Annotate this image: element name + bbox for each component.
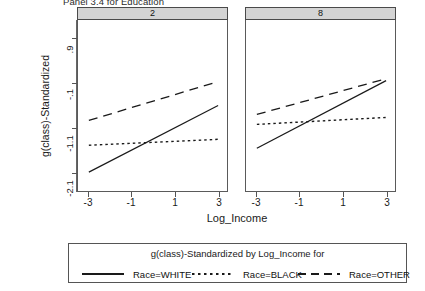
x-tick-label: 1: [331, 197, 355, 208]
legend-entries: Race=WHITE Race=BLACK Race=OTHER: [69, 266, 406, 282]
plot-lines-right: [246, 20, 395, 191]
series-line-white: [257, 81, 386, 149]
y-tick-label: .9: [64, 39, 75, 61]
series-line-black: [257, 117, 386, 124]
x-tick-label: -1: [287, 197, 311, 208]
plot-area-left: [77, 20, 228, 192]
x-axis-right: -3 -1 1 3: [245, 192, 396, 208]
x-axis-left: -3 -1 1 3: [77, 192, 228, 208]
x-tick-label: 1: [163, 197, 187, 208]
plot-area-right: [245, 20, 396, 192]
series-line-black: [89, 139, 218, 145]
x-axis-title: Log_Income: [78, 212, 396, 224]
legend-item-black: Race=BLACK: [191, 266, 302, 282]
legend-title: g(class)-Standardized by Log_Income for: [69, 248, 406, 259]
line-solid-icon: [81, 269, 125, 279]
panel-strip-label: 2: [77, 7, 228, 20]
x-tick-label: 3: [375, 197, 399, 208]
y-tick-label: -1.1: [64, 129, 75, 159]
x-tick-label: 3: [207, 197, 231, 208]
legend-label-white: Race=WHITE: [133, 269, 191, 280]
chart-legend: g(class)-Standardized by Log_Income for …: [68, 243, 407, 283]
legend-item-white: Race=WHITE: [81, 266, 191, 282]
chart-title: Panel 3.4 for Education: [63, 0, 164, 7]
line-dashed-icon: [297, 269, 341, 279]
legend-label-other: Race=OTHER: [349, 269, 410, 280]
series-line-other: [89, 82, 218, 121]
series-line-other: [257, 79, 386, 115]
panel-education-8: 8: [245, 7, 396, 192]
panel-strip-label: 8: [245, 7, 396, 20]
legend-label-black: Race=BLACK: [243, 269, 302, 280]
panel-education-2: 2: [77, 7, 228, 192]
x-tick-label: -3: [76, 197, 100, 208]
x-tick-label: -1: [119, 197, 143, 208]
y-axis-title: g(class)-Standardized: [39, 21, 51, 191]
y-tick-label: -.1: [64, 84, 75, 106]
x-tick-label: -3: [244, 197, 268, 208]
chart-figure: Panel 3.4 for Education g(class)-Standar…: [0, 0, 425, 291]
y-tick-label: -2.1: [64, 174, 75, 204]
line-dotted-icon: [191, 269, 235, 279]
legend-item-other: Race=OTHER: [297, 266, 410, 282]
series-line-white: [89, 106, 218, 173]
plot-lines-left: [78, 20, 227, 191]
